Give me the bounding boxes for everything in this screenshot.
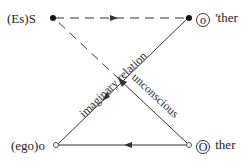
subject-label: (Es)S bbox=[7, 12, 36, 25]
ego-label: (ego)o bbox=[11, 139, 45, 152]
other-big-label: O ther bbox=[196, 138, 235, 154]
other-small-label: o 'ther bbox=[196, 11, 238, 27]
circled-o-icon: o bbox=[196, 13, 210, 27]
circled-O-icon: O bbox=[196, 140, 210, 154]
